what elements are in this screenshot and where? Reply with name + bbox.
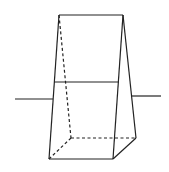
base-right-edge bbox=[113, 138, 136, 159]
hidden-back-left-edge bbox=[59, 15, 71, 138]
right-back-edge bbox=[123, 15, 136, 138]
hidden-base-left-edge bbox=[49, 138, 71, 159]
prism-figure bbox=[0, 0, 169, 172]
left-front-edge bbox=[49, 15, 59, 159]
prism-diagram bbox=[0, 0, 169, 172]
